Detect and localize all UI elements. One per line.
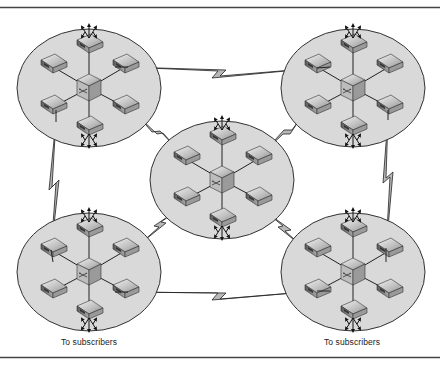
cluster-top-right (281, 25, 425, 147)
switch-hub-icon (17, 213, 161, 331)
cluster-top-left (17, 25, 161, 147)
cluster-center (150, 117, 294, 239)
cluster-bottom-left (17, 209, 161, 331)
switch-hub-icon (150, 121, 294, 239)
cluster-bottom-right (281, 209, 425, 331)
caption-bottom-left: To subscribers (61, 337, 117, 347)
switch-hub-icon (281, 213, 425, 331)
caption-bottom-right: To subscribers (324, 337, 380, 347)
network-diagram (0, 0, 440, 366)
switch-hub-icon (281, 29, 425, 147)
switch-hub-icon (17, 29, 161, 147)
